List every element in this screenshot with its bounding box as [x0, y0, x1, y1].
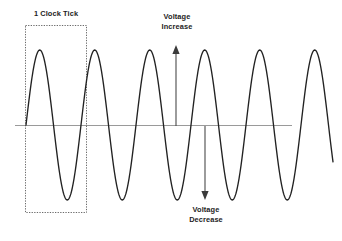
voltage-increase-arrow: [172, 45, 179, 126]
voltage-decrease-arrow: [201, 126, 208, 200]
voltage-increase-line1: Voltage: [143, 12, 211, 22]
voltage-decrease-line1: Voltage: [172, 205, 240, 215]
clock-tick-text: 1 Clock Tick: [34, 9, 78, 18]
voltage-increase-label: Voltage Increase: [143, 12, 211, 32]
clock-tick-box: [26, 26, 87, 213]
voltage-decrease-line2: Decrease: [172, 215, 240, 225]
clock-tick-label: 1 Clock Tick: [23, 9, 89, 19]
voltage-decrease-label: Voltage Decrease: [172, 205, 240, 225]
voltage-increase-line2: Increase: [143, 22, 211, 32]
waveform-diagram: 1 Clock Tick Voltage Increase Voltage De…: [0, 0, 342, 241]
diagram-canvas: [0, 0, 342, 241]
